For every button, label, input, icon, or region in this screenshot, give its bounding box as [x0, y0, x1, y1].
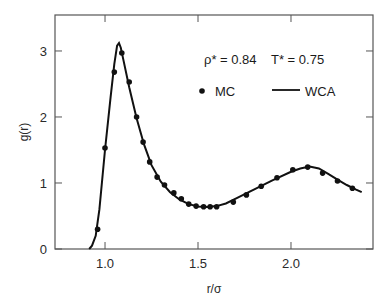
mc-point [207, 204, 213, 210]
mc-point [102, 145, 108, 151]
legend: MC WCA [199, 84, 335, 99]
mc-point [112, 69, 118, 75]
x-axis-label: r/σ [207, 282, 222, 296]
mc-point [140, 139, 146, 145]
mc-point [214, 204, 220, 210]
rdf-chart: 1.01.52.00123 r/σ g(r) ρ* = 0.84 T* = 0.… [0, 0, 387, 306]
mc-point [179, 196, 185, 202]
legend-mc-marker [199, 88, 205, 94]
y-axis-label: g(r) [17, 123, 31, 142]
plot-frame [55, 15, 373, 249]
mc-point [335, 178, 341, 184]
mc-point [154, 174, 160, 180]
temperature-annotation: T* = 0.75 [271, 52, 324, 67]
mc-point [95, 226, 101, 232]
wca-curve [89, 43, 362, 249]
y-tick-label: 2 [40, 110, 47, 125]
x-tick-label: 2.0 [282, 256, 300, 271]
mc-point [274, 175, 280, 181]
mc-point [171, 190, 177, 196]
mc-point [162, 182, 168, 188]
mc-point [290, 167, 296, 173]
mc-point [320, 170, 326, 176]
mc-point [350, 186, 356, 192]
mc-point [258, 184, 264, 190]
mc-point [186, 201, 192, 207]
mc-point [231, 199, 237, 205]
y-tick-label: 1 [40, 176, 47, 191]
legend-mc-label: MC [215, 84, 235, 99]
mc-point [193, 203, 199, 209]
density-annotation: ρ* = 0.84 [204, 52, 257, 67]
mc-point [305, 164, 311, 170]
axis-ticks [55, 15, 373, 249]
x-tick-label: 1.5 [189, 256, 207, 271]
mc-point [244, 192, 250, 198]
axis-tick-labels: 1.01.52.00123 [40, 44, 300, 271]
y-tick-label: 3 [40, 44, 47, 59]
mc-point [201, 204, 207, 210]
legend-wca-label: WCA [305, 84, 336, 99]
mc-point [119, 50, 125, 56]
mc-point [134, 114, 140, 120]
mc-point [126, 79, 132, 85]
y-tick-label: 0 [40, 242, 47, 257]
x-tick-label: 1.0 [96, 256, 114, 271]
mc-point [147, 159, 153, 165]
